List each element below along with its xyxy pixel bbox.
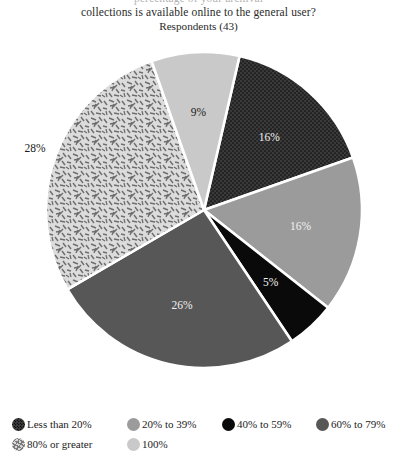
legend-row: Less than 20% 20% to 39% 40% to 59% 60% … (10, 415, 392, 434)
pie-slice-label: 16% (290, 220, 312, 232)
legend-item-40-to-59[interactable]: 40% to 59% (222, 415, 291, 434)
legend-item-label: 20% to 39% (142, 418, 196, 431)
legend-item-80-or-greater[interactable]: 80% or greater (12, 435, 92, 454)
legend-item-label: 100% (142, 438, 168, 451)
legend-item-60-to-79[interactable]: 60% to 79% (316, 415, 385, 434)
legend-swatch-icon (12, 418, 25, 431)
legend-item-less-than-20[interactable]: Less than 20% (12, 415, 92, 434)
pie-chart: 16%16%5%26%28%9% (0, 26, 397, 401)
legend-swatch-icon (12, 438, 25, 451)
legend-swatch-icon (127, 438, 140, 451)
pie-slice-label: 26% (171, 299, 193, 311)
pie-slice-label: 9% (191, 106, 207, 118)
pie-slice-label: 28% (25, 142, 47, 154)
chart-title-line: collections is available online to the g… (0, 5, 397, 19)
legend-item-label: 60% to 79% (331, 418, 385, 431)
chart-title-cutoff-line: percentage of your archival (0, 0, 397, 5)
chart-legend: Less than 20% 20% to 39% 40% to 59% 60% … (10, 415, 392, 457)
pie-chart-svg: 16%16%5%26%28%9% (0, 26, 397, 401)
legend-item-label: 80% or greater (27, 438, 92, 451)
legend-swatch-icon (222, 418, 235, 431)
legend-item-label: 40% to 59% (237, 418, 291, 431)
legend-swatch-icon (316, 418, 329, 431)
legend-row: 80% or greater 100% (10, 435, 392, 454)
pie-slice-label: 5% (263, 276, 279, 288)
legend-swatch-icon (127, 418, 140, 431)
pie-slice-label: 16% (259, 131, 281, 143)
legend-item-20-to-39[interactable]: 20% to 39% (127, 415, 196, 434)
legend-item-label: Less than 20% (27, 418, 92, 431)
legend-item-100[interactable]: 100% (127, 435, 168, 454)
pie-slice-group (46, 52, 362, 368)
